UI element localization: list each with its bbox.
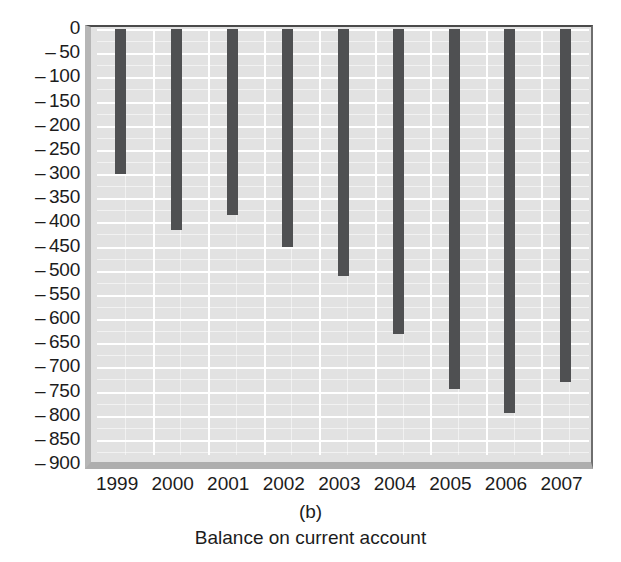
- gridline-vertical: [541, 29, 543, 455]
- y-tick-label: – 250: [2, 139, 80, 158]
- panel-label: (b): [0, 501, 621, 523]
- plot-wrapper: [85, 25, 593, 469]
- y-tick-label: – 50: [2, 42, 80, 61]
- bar-2007: [560, 29, 571, 382]
- plot-area: [85, 25, 593, 469]
- gridline-vertical: [430, 29, 432, 455]
- y-tick-label: – 750: [2, 381, 80, 400]
- bar-2000: [171, 29, 182, 230]
- y-tick-label: – 900: [2, 453, 80, 472]
- bar-2004: [393, 29, 404, 334]
- gridline-vertical: [375, 29, 377, 455]
- gridline-minor: [97, 428, 589, 429]
- x-axis: 199920002001200220032004200520062007: [85, 473, 593, 499]
- y-tick-label: – 450: [2, 236, 80, 255]
- y-tick-label: – 400: [2, 211, 80, 230]
- y-tick-label: 0: [2, 18, 80, 37]
- y-tick-label: – 350: [2, 187, 80, 206]
- y-tick-label: – 600: [2, 308, 80, 327]
- bar-1999: [115, 29, 126, 174]
- y-tick-label: – 700: [2, 356, 80, 375]
- y-tick-label: – 850: [2, 429, 80, 448]
- y-tick-label: – 500: [2, 260, 80, 279]
- bar-2003: [338, 29, 349, 276]
- gridline-major: [97, 416, 589, 418]
- gridline-major: [97, 440, 589, 442]
- gridline-vertical: [208, 29, 210, 455]
- bar-2002: [282, 29, 293, 247]
- bar-2005: [449, 29, 460, 389]
- x-tick-label-2007: 2007: [527, 473, 597, 495]
- chart-caption: Balance on current account: [0, 527, 621, 549]
- gridline-vertical: [486, 29, 488, 455]
- bar-2006: [504, 29, 515, 413]
- y-tick-label: – 200: [2, 115, 80, 134]
- gridline-vertical: [264, 29, 266, 455]
- y-axis: 0– 50– 100– 150– 200– 250– 300– 350– 400…: [0, 0, 80, 500]
- y-tick-label: – 800: [2, 405, 80, 424]
- y-tick-label: – 150: [2, 91, 80, 110]
- y-tick-label: – 550: [2, 284, 80, 303]
- gridline-minor: [97, 452, 589, 453]
- y-tick-label: – 300: [2, 163, 80, 182]
- bar-2001: [227, 29, 238, 215]
- gridline-vertical: [319, 29, 321, 455]
- chart-figure: 0– 50– 100– 150– 200– 250– 300– 350– 400…: [0, 0, 621, 562]
- y-tick-label: – 650: [2, 332, 80, 351]
- gridline-vertical: [153, 29, 155, 455]
- gridlines-and-bars: [97, 29, 589, 455]
- y-tick-label: – 100: [2, 66, 80, 85]
